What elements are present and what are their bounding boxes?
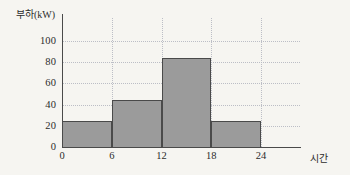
y-axis-line bbox=[62, 14, 63, 148]
y-tick-60: 60 bbox=[16, 77, 56, 88]
bar-series bbox=[62, 18, 300, 147]
y-tick-80: 80 bbox=[16, 56, 56, 67]
bar-6-12 bbox=[112, 100, 162, 147]
y-axis-tick-labels: 100 80 60 40 20 0 bbox=[12, 0, 56, 175]
x-axis-title: 시간 bbox=[310, 150, 328, 165]
y-tick-20: 20 bbox=[16, 120, 56, 131]
bar-12-18 bbox=[162, 58, 212, 147]
bar-18-24 bbox=[211, 121, 261, 147]
x-tick-12: 12 bbox=[147, 150, 177, 161]
bar-0-6 bbox=[62, 121, 112, 147]
y-tick-40: 40 bbox=[16, 99, 56, 110]
x-tick-6: 6 bbox=[97, 150, 127, 161]
x-axis-line bbox=[62, 147, 301, 148]
x-tick-0: 0 bbox=[47, 150, 77, 161]
y-tick-100: 100 bbox=[16, 35, 56, 46]
x-tick-18: 18 bbox=[196, 150, 226, 161]
load-duration-step-chart: 부하(kW) 100 80 60 40 20 0 0 6 12 18 24 시간 bbox=[0, 0, 350, 175]
x-tick-24: 24 bbox=[246, 150, 276, 161]
